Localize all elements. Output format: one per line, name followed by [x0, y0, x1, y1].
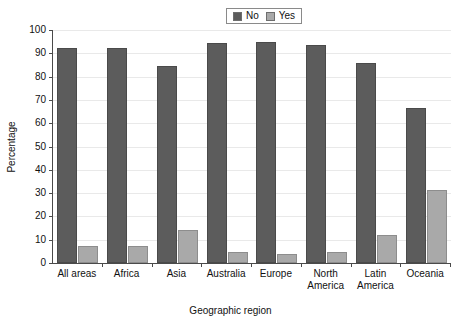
- x-category-label: Asia: [152, 268, 202, 280]
- x-tick-mark: [301, 263, 302, 267]
- bar-no: [57, 48, 77, 263]
- bar-group: [401, 30, 451, 263]
- y-tick-label: 40: [35, 165, 46, 175]
- y-tick-label: 0: [40, 258, 46, 268]
- bar-group: [53, 30, 103, 263]
- chart-legend: NoYes: [226, 8, 302, 24]
- bar-pair: [103, 30, 153, 263]
- y-tick-label: 70: [35, 95, 46, 105]
- bar-no: [157, 66, 177, 263]
- y-tick-label: 10: [35, 235, 46, 245]
- y-axis-title: Percentage: [6, 30, 18, 263]
- bar-pair: [302, 30, 352, 263]
- x-tick-mark: [251, 263, 252, 267]
- bar-pair: [352, 30, 402, 263]
- bar-yes: [178, 230, 198, 263]
- bar-no: [356, 63, 376, 263]
- bar-pair: [53, 30, 103, 263]
- x-category-label: Europe: [251, 268, 301, 280]
- x-tick-mark: [152, 263, 153, 267]
- legend-swatch-yes-icon: [266, 12, 275, 21]
- bar-group: [302, 30, 352, 263]
- bar-yes: [78, 246, 98, 263]
- bar-group: [352, 30, 402, 263]
- bar-yes: [228, 252, 248, 263]
- bar-pair: [252, 30, 302, 263]
- bar-chart: NoYes Percentage 0102030405060708090100 …: [0, 0, 461, 335]
- y-tick-label: 50: [35, 142, 46, 152]
- x-category-label: Africa: [102, 268, 152, 280]
- x-axis-title-label: Geographic region: [189, 305, 271, 316]
- x-category-label: All areas: [52, 268, 102, 280]
- plot-area: 0102030405060708090100: [52, 30, 451, 264]
- x-tick-mark: [400, 263, 401, 267]
- bar-group: [202, 30, 252, 263]
- bar-pair: [401, 30, 451, 263]
- x-category-label: North America: [301, 268, 351, 292]
- x-tick-mark: [201, 263, 202, 267]
- y-axis-title-label: Percentage: [7, 121, 17, 172]
- bar-no: [107, 48, 127, 263]
- bar-yes: [277, 254, 297, 263]
- bar-no: [207, 43, 227, 263]
- bar-yes: [128, 246, 148, 263]
- x-tick-mark: [351, 263, 352, 267]
- legend-label: No: [246, 11, 259, 21]
- bar-pair: [202, 30, 252, 263]
- bar-group: [153, 30, 203, 263]
- x-tick-mark: [450, 263, 451, 267]
- legend-entry-yes: Yes: [266, 11, 295, 21]
- x-category-label: Oceania: [400, 268, 450, 280]
- bar-yes: [377, 235, 397, 263]
- bar-yes: [327, 252, 347, 263]
- y-tick-label: 90: [35, 48, 46, 58]
- x-axis-title: Geographic region: [0, 305, 461, 316]
- legend-label: Yes: [279, 11, 295, 21]
- legend-swatch-no-icon: [233, 12, 242, 21]
- x-tick-mark: [102, 263, 103, 267]
- y-tick-label: 80: [35, 72, 46, 82]
- y-tick-label: 100: [29, 25, 46, 35]
- y-tick-label: 30: [35, 188, 46, 198]
- x-category-label: Latin America: [351, 268, 401, 292]
- legend-entry-no: No: [233, 11, 259, 21]
- bar-yes: [427, 190, 447, 263]
- bar-group: [103, 30, 153, 263]
- bar-no: [406, 108, 426, 263]
- bar-pair: [153, 30, 203, 263]
- y-tick-label: 20: [35, 211, 46, 221]
- bar-no: [306, 45, 326, 263]
- y-tick-label: 60: [35, 118, 46, 128]
- y-tick-mark: [49, 263, 53, 264]
- x-category-label: Australia: [201, 268, 251, 280]
- bar-group: [252, 30, 302, 263]
- bar-no: [256, 42, 276, 263]
